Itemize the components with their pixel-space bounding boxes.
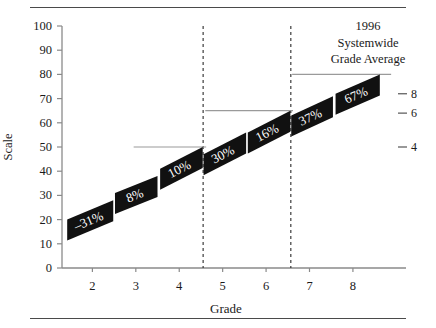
x-axis-title: Grade	[210, 302, 242, 315]
x-tick-label: 2	[79, 280, 105, 293]
x-tick-label: 8	[340, 280, 366, 293]
y-tick-label: 10	[22, 238, 52, 251]
annotation-line-3: Grade Average	[308, 51, 428, 68]
x-tick-label: 4	[166, 280, 192, 293]
figure-container: –31%8%10%30%16%37%67% 010203040506070809…	[0, 0, 436, 328]
y-tick-label: 90	[22, 44, 52, 57]
y-tick-label: 60	[22, 117, 52, 130]
chart-annotation: 1996 Systemwide Grade Average	[308, 18, 428, 68]
y-tick-label: 20	[22, 213, 52, 226]
y-tick-label: 80	[22, 68, 52, 81]
y-tick-label: 50	[22, 141, 52, 154]
y-tick-label: 0	[22, 262, 52, 275]
y-tick-label: 40	[22, 165, 52, 178]
y-tick-label: 30	[22, 189, 52, 202]
x-tick-label: 3	[123, 280, 149, 293]
annotation-line-1: 1996	[308, 18, 428, 35]
y-tick-label: 100	[22, 20, 52, 33]
x-tick-label: 7	[297, 280, 323, 293]
right-tick-label: 4	[411, 141, 417, 153]
x-tick-label: 6	[253, 280, 279, 293]
right-tick-label: 8	[411, 88, 417, 100]
x-tick-label: 5	[210, 280, 236, 293]
annotation-line-2: Systemwide	[308, 35, 428, 52]
right-tick-label: 6	[411, 107, 417, 119]
y-tick-label: 70	[22, 92, 52, 105]
y-axis-title: Scale	[2, 133, 15, 160]
